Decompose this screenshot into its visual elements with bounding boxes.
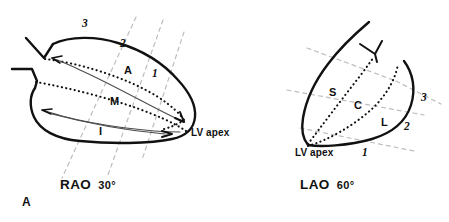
- rao-motion-arrow-inferior-left: [42, 110, 180, 132]
- figure-canvas: 3 2 1 A M I LV apex RAO30° A 3 2 1 S C L…: [0, 0, 449, 222]
- rao-motion-arrowhead-inferior-left: [42, 109, 52, 114]
- rao-caption-degrees: 30°: [98, 179, 116, 191]
- rao-divider-anterior-mid: [45, 59, 184, 120]
- panel-letter-a: A: [22, 196, 31, 208]
- lao-plane-line-3: [396, 81, 441, 104]
- rao-segment-label-inferior: I: [99, 126, 102, 137]
- rao-plane-number-3: 3: [82, 18, 88, 30]
- lao-panel-graphics: [287, 22, 441, 151]
- rao-apex-label: LV apex: [191, 128, 229, 138]
- rao-segment-label-mid: M: [110, 96, 119, 107]
- rao-caption: RAO30°: [60, 178, 116, 192]
- lao-apex-label: LV apex: [295, 148, 333, 158]
- lao-plane-number-3: 3: [421, 92, 427, 104]
- lao-segment-label-central: C: [354, 100, 362, 111]
- lao-caption-text: LAO: [300, 177, 330, 192]
- lao-caption-degrees: 60°: [337, 179, 355, 191]
- rao-panel-graphics: [12, 17, 195, 178]
- rao-caption-text: RAO: [60, 177, 91, 192]
- rao-apex-arrowhead: [175, 112, 184, 122]
- rao-plane-number-1: 1: [152, 68, 158, 80]
- lao-plane-number-2: 2: [404, 121, 410, 133]
- lao-caption: LAO60°: [300, 178, 355, 192]
- rao-mitral-notch: [12, 69, 37, 88]
- lao-ventricle-outline-septal: [302, 22, 369, 145]
- rao-motion-arrow-toward-apex: [52, 114, 165, 134]
- lao-segment-label-septal: S: [329, 87, 337, 98]
- rao-plane-number-2: 2: [120, 38, 126, 50]
- rao-apex-convergence-upper: [160, 120, 184, 130]
- lao-segment-label-lateral: L: [381, 117, 388, 128]
- lao-aortic-valve-marker: [360, 41, 382, 62]
- rao-aortic-valve-notch: [26, 38, 53, 58]
- lao-plane-number-1: 1: [362, 147, 368, 159]
- rao-segment-label-anterior: A: [124, 65, 132, 76]
